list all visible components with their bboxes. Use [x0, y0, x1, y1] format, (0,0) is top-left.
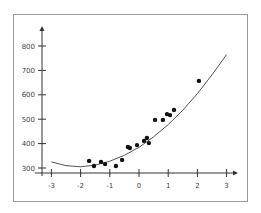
y-tick-label: 500: [22, 116, 35, 124]
data-point: [168, 113, 172, 117]
y-tick-label: 600: [22, 91, 35, 99]
data-point: [153, 118, 157, 122]
data-point: [197, 79, 201, 83]
data-point: [99, 160, 103, 164]
y-tick-label: 800: [22, 43, 35, 51]
data-point: [103, 162, 107, 166]
x-tick-label: 2: [195, 182, 199, 190]
data-point: [147, 141, 151, 145]
x-tick-label: 3: [224, 182, 228, 190]
data-point: [145, 136, 149, 140]
x-tick-label: 1: [166, 182, 170, 190]
data-point: [161, 118, 165, 122]
data-point: [120, 158, 124, 162]
y-tick-label: 400: [22, 140, 35, 148]
data-point: [114, 164, 118, 168]
chart-container: -3-2-10123300400500600700800: [0, 0, 261, 213]
x-tick-label: -2: [77, 182, 84, 190]
scatter-plot: -3-2-10123300400500600700800: [0, 0, 261, 213]
x-tick-label: 0: [137, 182, 141, 190]
data-point: [92, 164, 96, 168]
x-tick-label: -1: [106, 182, 113, 190]
x-tick-label: -3: [48, 182, 55, 190]
data-point: [128, 146, 132, 150]
data-point: [172, 108, 176, 112]
y-tick-label: 300: [22, 165, 35, 173]
data-point: [135, 143, 139, 147]
data-point: [87, 159, 91, 163]
y-tick-label: 700: [22, 67, 35, 75]
